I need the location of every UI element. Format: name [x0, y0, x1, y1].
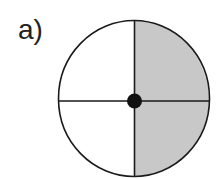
- center-dot: [127, 94, 142, 109]
- unshaded-quadrant-top-left: [58, 20, 134, 101]
- shaded-quadrant-top-right: [134, 20, 209, 101]
- shaded-quadrant-bottom-right: [134, 101, 209, 176]
- quartered-circle-diagram: [0, 0, 223, 179]
